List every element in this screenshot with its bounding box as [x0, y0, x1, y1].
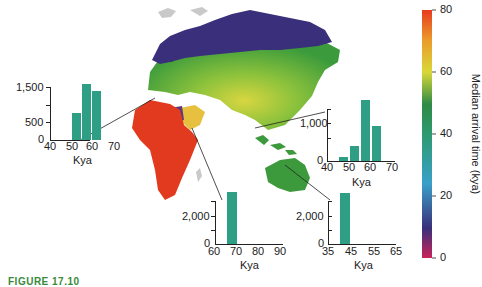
bar-55-60	[82, 84, 91, 140]
bar-65-70	[227, 192, 237, 244]
bar-55-60	[361, 100, 370, 161]
madagascar	[196, 168, 202, 182]
colorbar-tick-0: 0	[440, 251, 446, 263]
colorbar-ticks	[432, 10, 436, 258]
arctic-islands	[158, 7, 208, 18]
colorbar-tick-20: 20	[440, 189, 452, 201]
bar-60-65	[372, 126, 381, 161]
australia-histogram: 2,000 0 35 45 55 65 Kya	[282, 185, 412, 280]
bar-50-55	[350, 146, 359, 161]
bar-50-55	[72, 113, 81, 140]
east-asia-histogram: 1,000 0 40 50 60 70 Kya	[300, 100, 410, 185]
colorbar-label: Median arrival time (kya)	[470, 64, 482, 204]
bar-40-45	[340, 193, 350, 244]
colorbar	[422, 10, 432, 258]
europe-histogram: 1,500 500 0 40 50 60 70 Kya	[0, 78, 100, 168]
southeast-asia-region	[255, 135, 297, 155]
colorbar-tick-60: 60	[440, 65, 452, 77]
bar-60-65	[92, 91, 101, 140]
colorbar-tick-40: 40	[440, 127, 452, 139]
figure-label: FIGURE 17.10	[8, 276, 80, 287]
colorbar-tick-80: 80	[440, 3, 452, 15]
east-africa-histogram: 2,000 0 60 70 80 90 Kya	[170, 185, 290, 280]
